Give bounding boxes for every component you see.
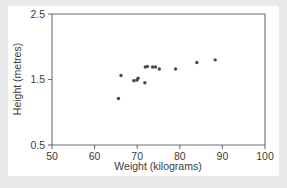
y-axis-title: Height (metres) xyxy=(11,43,23,115)
data-point xyxy=(195,61,198,64)
x-tick-label: 90 xyxy=(217,150,229,162)
figure-card: 5060708090100 0.51.52.5 Weight (kilogram… xyxy=(8,6,279,176)
data-point xyxy=(151,65,154,68)
chart-svg: 5060708090100 0.51.52.5 Weight (kilogram… xyxy=(8,6,279,176)
data-point xyxy=(117,97,120,100)
data-point xyxy=(146,65,149,68)
x-axis-title: Weight (kilograms) xyxy=(114,160,201,172)
data-point xyxy=(132,79,135,82)
y-tick-label: 0.5 xyxy=(30,139,45,151)
data-point xyxy=(174,67,177,70)
y-axis-ticks: 0.51.52.5 xyxy=(30,8,52,151)
data-point xyxy=(143,81,146,84)
y-tick-label: 2.5 xyxy=(30,8,45,20)
plot-frame xyxy=(52,14,265,145)
data-point xyxy=(158,67,161,70)
data-point xyxy=(119,74,122,77)
y-tick-label: 1.5 xyxy=(30,73,45,85)
data-points-layer xyxy=(117,58,217,100)
scatter-plot: 5060708090100 0.51.52.5 Weight (kilogram… xyxy=(8,6,279,176)
x-tick-label: 100 xyxy=(256,150,274,162)
data-point xyxy=(136,76,139,79)
data-point xyxy=(154,65,157,68)
data-point xyxy=(213,58,216,61)
x-tick-label: 60 xyxy=(89,150,101,162)
x-tick-label: 50 xyxy=(46,150,58,162)
